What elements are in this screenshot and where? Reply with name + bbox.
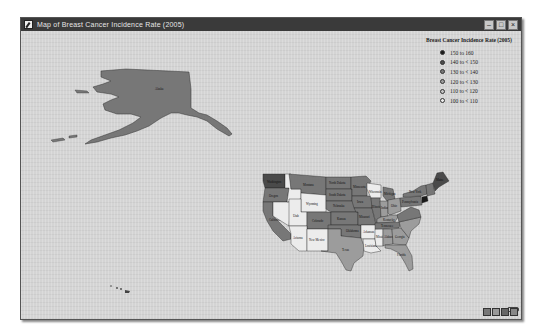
svg-text:Kansas: Kansas	[337, 217, 346, 221]
map-legend: Breast Cancer Incidence Rate (2005) 150 …	[426, 37, 518, 106]
title-bar[interactable]: Map of Breast Cancer Incidence Rate (200…	[21, 18, 521, 31]
svg-text:North Dakota: North Dakota	[329, 181, 346, 185]
hand-icon[interactable]	[483, 308, 491, 316]
svg-text:Colorado: Colorado	[312, 219, 324, 223]
state-pennsylvania[interactable]: Pennsylvania	[400, 196, 422, 207]
svg-text:New York: New York	[409, 190, 422, 194]
maximize-button[interactable]: □	[496, 20, 506, 30]
map-window: Map of Breast Cancer Incidence Rate (200…	[20, 17, 522, 320]
state-hawaii[interactable]	[110, 285, 130, 293]
svg-text:Michigan: Michigan	[384, 192, 396, 196]
svg-text:New Mexico: New Mexico	[309, 238, 325, 242]
map-view[interactable]: Alaska Washington Oregon California	[21, 31, 521, 319]
svg-text:Arkansas: Arkansas	[363, 230, 375, 234]
legend-title: Breast Cancer Incidence Rate (2005)	[426, 37, 518, 43]
window-controls: – □ ×	[484, 20, 518, 30]
state-new-mexico[interactable]: New Mexico	[307, 229, 328, 251]
state-wyoming[interactable]: Wyoming	[301, 193, 326, 212]
state-arizona[interactable]: Arizona	[289, 226, 307, 251]
legend-item: 140 to < 150	[440, 58, 518, 68]
svg-text:Ohio: Ohio	[391, 204, 398, 208]
zoom-out-icon[interactable]	[501, 308, 509, 316]
zoom-in-icon[interactable]	[492, 308, 500, 316]
svg-text:Georgia: Georgia	[395, 235, 405, 239]
svg-text:Illinois: Illinois	[372, 205, 381, 209]
legend-item: 120 to < 130	[440, 77, 518, 87]
legend-swatch-icon	[440, 98, 445, 103]
svg-text:Iowa: Iowa	[357, 200, 364, 204]
state-arkansas[interactable]: Arkansas	[361, 225, 376, 239]
state-oregon[interactable]: Oregon	[263, 188, 289, 202]
svg-text:Nebraska: Nebraska	[333, 204, 345, 208]
state-south-dakota[interactable]: South Dakota	[326, 189, 352, 201]
state-maine[interactable]: Maine	[433, 172, 449, 191]
state-washington[interactable]: Washington	[263, 174, 285, 188]
state-alaska[interactable]: Alaska	[51, 69, 232, 144]
state-iowa[interactable]: Iowa	[352, 196, 372, 208]
svg-text:Tennessee: Tennessee	[381, 224, 394, 228]
svg-text:South Dakota: South Dakota	[329, 193, 346, 197]
state-florida[interactable]: Florida	[385, 245, 413, 271]
app-icon	[24, 20, 33, 29]
svg-text:Utah: Utah	[293, 214, 299, 218]
svg-text:Wisconsin: Wisconsin	[369, 190, 382, 194]
svg-text:Minnesota: Minnesota	[353, 185, 366, 189]
legend-swatch-icon	[440, 60, 445, 65]
svg-text:Arizona: Arizona	[293, 236, 303, 240]
legend-item: 110 to < 120	[440, 86, 518, 96]
map-navigation-tools	[483, 308, 518, 316]
state-colorado[interactable]: Colorado	[307, 212, 331, 229]
svg-text:Montana: Montana	[303, 183, 314, 187]
svg-text:Kentucky: Kentucky	[383, 218, 395, 222]
svg-text:Oregon: Oregon	[269, 194, 278, 198]
state-ohio[interactable]: Ohio	[388, 198, 401, 215]
svg-text:Missouri: Missouri	[359, 215, 370, 219]
state-kansas[interactable]: Kansas	[331, 212, 358, 225]
state-new-york[interactable]: New York	[403, 185, 427, 197]
svg-text:Maine: Maine	[436, 178, 444, 182]
globe-icon[interactable]	[510, 308, 518, 316]
state-tennessee[interactable]: Tennessee	[375, 222, 401, 229]
svg-text:Florida: Florida	[397, 253, 406, 257]
svg-text:Wyoming: Wyoming	[306, 202, 318, 206]
legend-item: 100 to < 110	[440, 96, 518, 106]
minimize-button[interactable]: –	[484, 20, 494, 30]
state-north-dakota[interactable]: North Dakota	[326, 177, 351, 189]
state-nebraska[interactable]: Nebraska	[326, 201, 356, 212]
svg-text:Pennsylvania: Pennsylvania	[402, 200, 419, 204]
legend-swatch-icon	[440, 79, 445, 84]
window-title: Map of Breast Cancer Incidence Rate (200…	[37, 18, 184, 31]
state-wisconsin[interactable]: Wisconsin	[367, 183, 382, 198]
state-label-alaska: Alaska	[155, 87, 164, 91]
close-button[interactable]: ×	[508, 20, 518, 30]
svg-text:Oklahoma: Oklahoma	[346, 229, 359, 233]
legend-swatch-icon	[440, 89, 445, 94]
legend-item: 130 to < 140	[440, 67, 518, 77]
legend-swatch-icon	[440, 50, 445, 55]
legend-swatch-icon	[440, 69, 445, 74]
legend-item: 150 to 160	[440, 48, 518, 58]
svg-text:Texas: Texas	[342, 248, 350, 252]
svg-text:Washington: Washington	[267, 180, 282, 184]
